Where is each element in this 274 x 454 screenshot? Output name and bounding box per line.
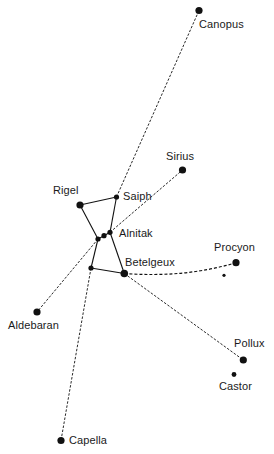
label-castor: Castor [219,380,252,392]
label-capella: Capella [69,434,107,446]
star-pollux-icon [240,356,247,363]
star-hopping-diagram: CanopusSiriusRigelSaiphAlnitakBetelgeuxP… [0,0,274,454]
star-saiph-icon [114,194,119,199]
label-aldebaran: Aldebaran [8,319,59,331]
star-procyon-b-icon [222,274,225,277]
label-alnitak: Alnitak [119,227,153,239]
star-betelgeux-icon [121,270,129,278]
star-sirius-icon [179,166,186,173]
star-bellatrix-icon [88,265,93,270]
label-rigel: Rigel [53,184,79,196]
label-pollux: Pollux [234,337,265,349]
label-betelgeux: Betelgeux [125,256,175,268]
star-aldebaran-icon [33,308,40,315]
label-sirius: Sirius [166,150,194,162]
star-castor-icon [232,372,237,377]
star-capella-icon [57,437,64,444]
star-belt2-icon [101,233,106,238]
star-belt1-icon [95,236,100,241]
label-canopus: Canopus [199,18,244,30]
star-procyon-icon [232,259,239,266]
label-procyon: Procyon [214,241,255,253]
label-saiph: Saiph [123,190,152,202]
star-rigel-icon [76,201,83,208]
star-alnitak-icon [107,230,112,235]
star-canopus-icon [195,7,202,14]
